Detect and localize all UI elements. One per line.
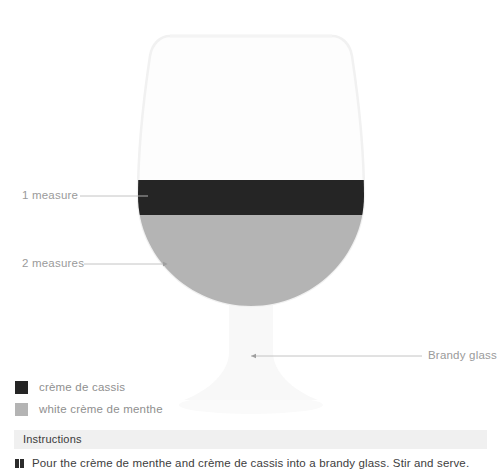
dark-swatch-icon [15,381,28,394]
light-swatch-icon [15,403,28,416]
step-marker-icon [15,459,24,468]
brandy-glass-graphic [0,0,501,420]
legend-item-label: crème de cassis [39,382,125,394]
callout-label-1-measure: 1 measure [22,190,78,202]
liquid-layer-white-creme-de-menthe [130,215,372,310]
liquid-layer-creme-de-cassis [130,180,372,215]
legend-item-label: white crème de menthe [39,404,163,416]
instruction-step-text: Pour the crème de menthe and crème de ca… [32,457,469,470]
instruction-step: Pour the crème de menthe and crème de ca… [14,457,487,470]
legend-item: crème de cassis [15,379,255,396]
legend-item: white crème de menthe [15,401,255,418]
recipe-diagram-page: 1 measure 2 measures Brandy glass crème … [0,0,501,470]
glass-illustration: 1 measure 2 measures Brandy glass [0,0,501,420]
callout-label-2-measures: 2 measures [22,258,84,270]
instructions-section: Instructions Pour the crème de menthe an… [14,430,487,470]
instructions-heading: Instructions [14,430,487,449]
ingredient-legend: crème de cassis white crème de menthe [15,379,255,423]
callout-label-brandy-glass: Brandy glass [428,350,497,362]
